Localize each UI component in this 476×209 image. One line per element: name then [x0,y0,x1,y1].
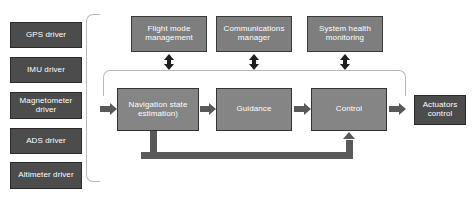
output-box-actuators-control[interactable]: Actuators control [414,95,466,125]
driver-label-ads: ADS driver [24,137,68,146]
flow-arrowhead-drivers-to-navigation [110,103,117,115]
block-diagram-canvas: GPS driver IMU driver Magnetometer drive… [0,0,476,209]
bidirectional-arrow-system-health [340,54,350,70]
feedback-line-control-rise [346,140,353,159]
service-label-system-health-monitoring: System health monitoring [308,25,382,43]
service-label-flight-mode-management: Flight mode management [132,25,206,43]
pipeline-box-navigation-state-estimation[interactable]: Navigation state estimation) [117,88,199,131]
driver-label-gps: GPS driver [24,31,68,40]
output-label-actuators-control: Actuators control [415,101,465,119]
service-label-communications-manager: Communications manager [217,25,291,43]
driver-label-magnetometer: Magnetometer driver [11,97,81,115]
flow-arrowhead-control-to-actuators [399,103,406,115]
pipeline-label-control: Control [334,105,365,114]
flow-line-guidance-to-control [294,106,304,112]
flow-line-control-to-actuators [389,106,399,112]
pipeline-label-navigation-state-estimation: Navigation state estimation) [118,101,198,119]
driver-box-altimeter[interactable]: Altimeter driver [10,162,82,189]
service-box-system-health-monitoring[interactable]: System health monitoring [307,16,383,52]
bidirectional-arrow-flight-mode [164,54,174,70]
pipeline-box-control[interactable]: Control [311,88,387,131]
service-box-communications-manager[interactable]: Communications manager [216,16,292,52]
driver-box-imu[interactable]: IMU driver [10,57,82,83]
flow-line-drivers-to-navigation [100,106,110,112]
pipeline-label-guidance: Guidance [234,105,273,114]
driver-group-bracket [86,14,100,182]
driver-label-imu: IMU driver [25,66,67,75]
driver-label-altimeter: Altimeter driver [16,171,75,180]
flow-line-navigation-to-guidance [200,106,209,112]
feedback-line-horizontal [141,152,353,159]
feedback-arrowhead-into-control [343,132,355,139]
driver-box-ads[interactable]: ADS driver [10,128,82,154]
feedback-line-navigation-drop [150,131,157,152]
pipeline-box-guidance[interactable]: Guidance [216,88,292,131]
flow-arrowhead-navigation-to-guidance [209,103,216,115]
bidirectional-arrow-communications [249,54,259,70]
service-box-flight-mode-management[interactable]: Flight mode management [131,16,207,52]
flow-arrowhead-guidance-to-control [304,103,311,115]
driver-box-magnetometer[interactable]: Magnetometer driver [10,92,82,119]
driver-box-gps[interactable]: GPS driver [10,22,82,48]
